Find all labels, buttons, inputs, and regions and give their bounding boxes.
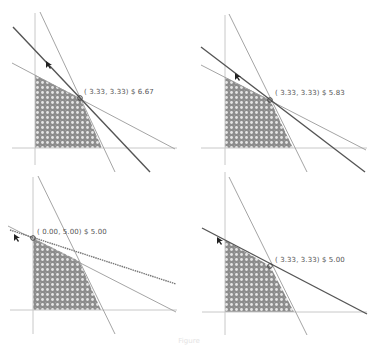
feasible-region xyxy=(225,77,293,148)
optimal-point-label: ( 0.00, 5.00) $ 5.00 xyxy=(37,228,107,236)
panel-top-left: ( 3.33, 3.33) $ 6.67 xyxy=(0,0,189,172)
lp-graph xyxy=(0,0,189,172)
panel-top-right: ( 3.33, 3.33) $ 5.83 xyxy=(189,0,378,172)
optimal-point-label: ( 3.33, 3.33) $ 6.67 xyxy=(84,88,154,96)
cursor-icon xyxy=(235,73,241,81)
lp-graph xyxy=(189,0,378,172)
lp-graph xyxy=(0,172,189,344)
feasible-region xyxy=(225,240,294,312)
optimal-point-label: ( 3.33, 3.33) $ 5.00 xyxy=(275,256,345,264)
panel-bottom-left: ( 0.00, 5.00) $ 5.00 xyxy=(0,172,189,344)
optimal-point-label: ( 3.33, 3.33) $ 5.83 xyxy=(275,89,345,97)
panel-bottom-right: ( 3.33, 3.33) $ 5.00 xyxy=(189,172,378,344)
cursor-icon xyxy=(14,234,20,242)
figure-caption: Figure xyxy=(0,337,378,345)
